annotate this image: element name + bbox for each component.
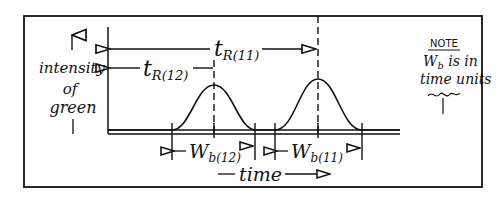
wb11-label: Wb(11) bbox=[291, 140, 343, 165]
y-label-line3: green bbox=[49, 98, 96, 117]
note-line1: Wb is in bbox=[423, 53, 478, 71]
peak-11-curve bbox=[275, 79, 400, 130]
y-label-line1: intensity bbox=[39, 59, 106, 77]
note-heading: NOTE bbox=[430, 38, 458, 49]
x-axis-label: time bbox=[239, 163, 282, 185]
note: NOTE Wb is in time units bbox=[420, 38, 491, 114]
y-label-line2: of bbox=[63, 80, 80, 98]
wb12-label: Wb(12) bbox=[189, 140, 241, 165]
tR12-label: tR(12) bbox=[143, 56, 188, 83]
chromatogram-diagram: tR(11) tR(12) intensity of green Wb(12) … bbox=[0, 0, 504, 203]
tR11-label: tR(11) bbox=[214, 36, 259, 63]
peak-12-curve bbox=[108, 85, 275, 130]
note-line2: time units bbox=[420, 71, 491, 87]
note-squiggle bbox=[428, 93, 460, 96]
